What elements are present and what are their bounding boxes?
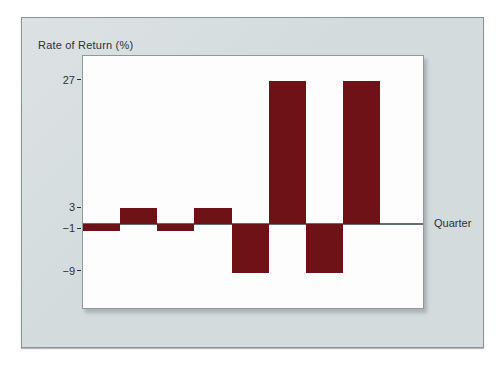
y-tick-mark: [77, 270, 81, 271]
y-tick-mark: [77, 79, 81, 80]
chart-title: Rate of Return (%): [38, 39, 133, 51]
y-tick-27: 27: [63, 74, 81, 86]
y-tick-label: −1: [62, 222, 75, 234]
bar-7: [306, 224, 343, 273]
x-axis-label: Quarter: [434, 217, 471, 229]
y-tick-3: 3: [69, 201, 81, 213]
bar-4: [194, 208, 232, 224]
bar-6: [269, 81, 306, 224]
page: Rate of Return (%) 273−1−9 Quarter: [0, 0, 500, 367]
y-tick-label: 3: [69, 201, 75, 213]
bar-1: [83, 224, 120, 231]
y-tick-label: 27: [63, 74, 75, 86]
y-tick-label: −9: [62, 265, 75, 277]
y-tick-mark: [77, 228, 81, 229]
y-tick--1: −1: [62, 222, 81, 234]
chart-panel: Rate of Return (%) 273−1−9 Quarter: [21, 17, 484, 348]
y-tick--9: −9: [62, 265, 81, 277]
y-tick-mark: [77, 207, 81, 208]
bar-2: [120, 208, 157, 224]
bar-3: [157, 224, 194, 231]
plot-area: [82, 55, 424, 309]
bar-8: [343, 81, 380, 224]
bar-5: [232, 224, 269, 273]
